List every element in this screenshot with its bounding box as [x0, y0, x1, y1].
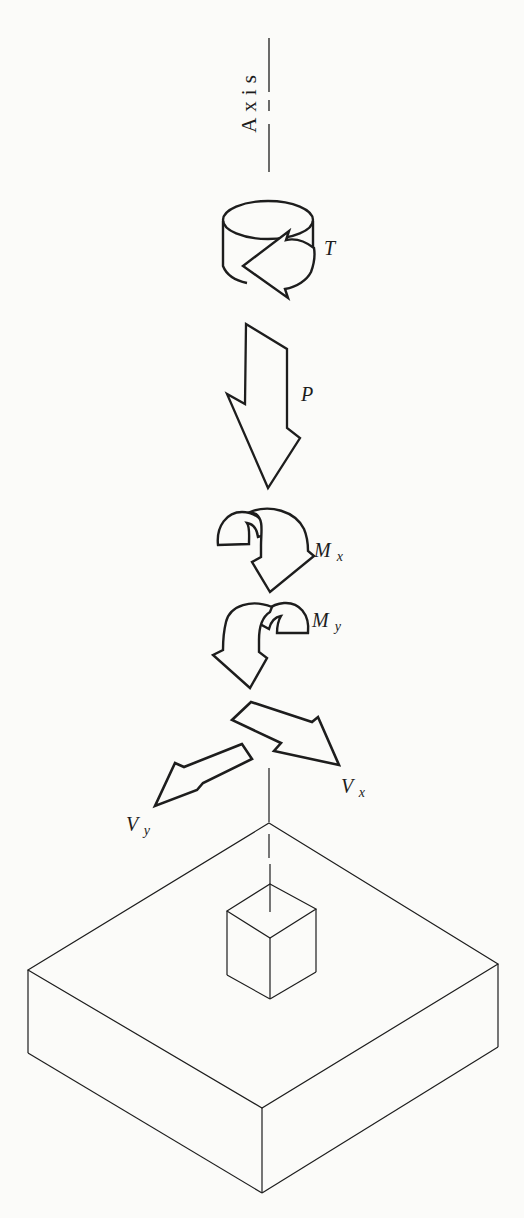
moment-y-label-sub: y [333, 619, 342, 634]
torque-cylinder-top [223, 201, 313, 239]
moment-y-label-base: M [311, 609, 330, 631]
figure-load-diagram: Axis T P M x M y V x V y [0, 0, 524, 1218]
shear-x-label-base: V [341, 775, 356, 797]
axial-load-label: P [300, 383, 313, 405]
moment-x-label-base: M [313, 539, 332, 561]
diagram-canvas: Axis T P M x M y V x V y [0, 0, 524, 1218]
shear-y-label-sub: y [142, 823, 151, 838]
axis-label: Axis [237, 69, 261, 133]
shear-y-label-base: V [126, 813, 141, 835]
shear-x-label-sub: x [358, 785, 366, 800]
torque-label: T [324, 237, 337, 259]
moment-x-label-sub: x [336, 549, 344, 564]
